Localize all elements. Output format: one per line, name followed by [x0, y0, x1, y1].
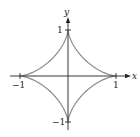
- y-axis-label: y: [63, 7, 70, 17]
- y-axis-arrow-icon: [66, 17, 70, 23]
- y-tick-label-neg1: −1: [52, 117, 65, 127]
- x-axis-arrow-icon: [125, 74, 131, 78]
- y-tick-label-pos1: 1: [57, 25, 63, 35]
- x-axis-label: x: [132, 71, 137, 81]
- x-tick-label-neg1: −1: [12, 80, 25, 90]
- x-tick-label-pos1: 1: [113, 80, 119, 90]
- astroid-chart: x y −1 1 1 −1: [0, 0, 140, 137]
